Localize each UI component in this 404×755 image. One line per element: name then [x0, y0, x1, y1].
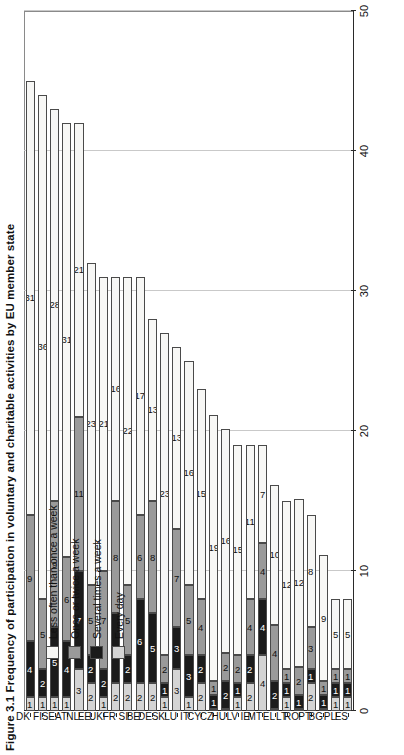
segment-value-label: 6	[137, 552, 142, 562]
segment-SK-oncetwice: 2	[160, 655, 169, 683]
value-axis-label: 30	[358, 285, 370, 297]
segment-value-label: 7	[260, 489, 265, 499]
value-axis-label: 0	[358, 708, 370, 714]
category-tick-ES	[348, 713, 349, 717]
legend-swatch-oncetwice	[68, 646, 81, 659]
bar-SK: 11223	[160, 333, 169, 711]
segment-value-label: 4	[64, 664, 69, 674]
segment-IE-lessoften: 11	[246, 445, 255, 599]
segment-value-label: 23	[160, 489, 169, 499]
segment-value-label: 2	[137, 692, 142, 702]
segment-BG-several: 1	[319, 695, 328, 709]
segment-LV-lessoften: 15	[233, 445, 242, 655]
segment-value-label: 9	[27, 573, 32, 583]
segment-UK-everyday: 1	[99, 697, 108, 711]
segment-value-label: 2	[150, 692, 155, 702]
gridline-50	[24, 10, 354, 11]
segment-value-label: 31	[62, 335, 71, 345]
bar-MT: 4447	[258, 445, 267, 711]
segment-IT-several: 3	[184, 655, 193, 697]
segment-MT-everyday: 4	[258, 655, 267, 711]
segment-LV-everyday: 1	[233, 697, 242, 711]
segment-value-label: 1	[333, 671, 338, 681]
bar-BE: 26617	[136, 277, 145, 711]
category-label-LU: LU	[164, 712, 177, 722]
segment-value-label: 3	[174, 643, 179, 653]
segment-LT-lessoften: 12	[282, 501, 291, 669]
segment-value-label: 2	[125, 664, 130, 674]
category-label-UK: UK	[90, 712, 104, 722]
category-label-DE: DE	[138, 712, 152, 722]
category-label-MT: MT	[248, 712, 262, 722]
category-label-RO: RO	[284, 712, 299, 722]
segment-value-label: 17	[136, 391, 145, 401]
segment-MT-several: 4	[258, 599, 267, 655]
segment-SI-several: 2	[123, 655, 132, 683]
segment-value-label: 1	[162, 699, 167, 709]
segment-LU-oncetwice: 7	[172, 529, 181, 627]
segment-EE-everyday: 2	[87, 683, 96, 711]
legend-item-everyday: Every day	[112, 505, 125, 659]
bar-CY: 22415	[197, 389, 206, 711]
segment-PT-lessoften: 8	[307, 515, 316, 627]
legend-label-several: Several times a week	[91, 539, 103, 639]
category-label-BG: BG	[309, 712, 323, 722]
segment-SK-lessoften: 23	[160, 333, 169, 655]
segment-value-label: 2	[40, 678, 45, 688]
segment-SI-everyday: 2	[123, 683, 132, 711]
segment-LU-everyday: 3	[172, 669, 181, 711]
value-tick-0	[351, 710, 356, 711]
segment-value-label: 1	[235, 685, 240, 695]
segment-value-label: 23	[87, 419, 96, 429]
bar-CZ: 1119	[209, 415, 218, 711]
segment-value-label: 4	[27, 664, 32, 674]
segment-LT-everyday: 1	[282, 697, 291, 711]
segment-value-label: 1	[211, 683, 216, 693]
segment-SE-everyday: 1	[50, 697, 59, 711]
segment-PT-everyday: 2	[307, 683, 316, 711]
segment-value-label: 5	[333, 629, 338, 639]
legend-item-lessoften: Less often than once a week	[46, 505, 59, 659]
segment-value-label: 2	[223, 662, 228, 672]
segment-value-label: 1	[284, 671, 289, 681]
segment-value-label: 1	[321, 697, 326, 707]
segment-value-label: 2	[296, 676, 301, 686]
segment-value-label: 1	[64, 699, 69, 709]
segment-DE-everyday: 2	[148, 683, 157, 711]
segment-CZ-several: 1	[209, 695, 218, 709]
segment-FI-several: 2	[38, 669, 47, 697]
segment-AT-lessoften: 31	[62, 123, 71, 557]
segment-PL-several: 1	[331, 683, 340, 697]
bar-EL: 2410	[270, 485, 279, 711]
segment-value-label: 1	[211, 697, 216, 707]
segment-LV-oncetwice: 2	[233, 655, 242, 683]
segment-value-label: 2	[309, 692, 314, 702]
segment-value-label: 12	[294, 578, 303, 588]
segment-value-label: 5	[186, 615, 191, 625]
segment-value-label: 19	[209, 543, 218, 553]
segment-value-label: 28	[50, 300, 59, 310]
segment-NL-lessoften: 21	[74, 123, 83, 417]
segment-value-label: 4	[260, 566, 265, 576]
value-tick-30	[351, 290, 356, 291]
segment-value-label: 2	[199, 692, 204, 702]
segment-value-label: 2	[101, 678, 106, 688]
segment-IE-everyday: 2	[246, 683, 255, 711]
segment-ES-several: 1	[343, 683, 352, 697]
segment-DE-lessoften: 13	[148, 319, 157, 501]
segment-RO-several: 1	[294, 695, 303, 709]
segment-value-label: 5	[345, 629, 350, 639]
segment-DE-several: 5	[148, 613, 157, 683]
segment-PL-oncetwice: 1	[331, 669, 340, 683]
value-axis-label: 40	[358, 145, 370, 157]
segment-value-label: 5	[150, 643, 155, 653]
segment-PL-lessoften: 5	[331, 599, 340, 669]
segment-MT-lessoften: 7	[258, 445, 267, 543]
segment-value-label: 22	[123, 426, 132, 436]
segment-HU-lessoften: 16	[221, 429, 230, 653]
segment-FR-lessoften: 16	[111, 277, 120, 501]
segment-CY-several: 2	[197, 655, 206, 683]
segment-value-label: 4	[260, 622, 265, 632]
segment-PT-oncetwice: 3	[307, 627, 316, 669]
segment-value-label: 1	[101, 699, 106, 709]
